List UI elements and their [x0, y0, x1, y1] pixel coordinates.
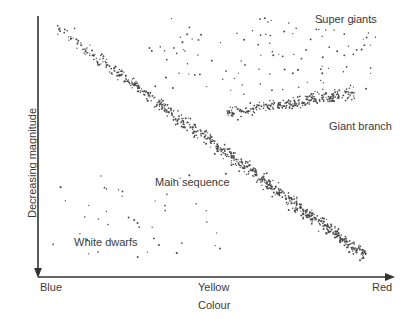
x-tick-label-red: Red: [372, 282, 392, 293]
x-tick-label-blue: Blue: [40, 282, 62, 293]
annotation-main-sequence: Main sequence: [155, 177, 230, 188]
x-axis-title: Colour: [198, 300, 230, 311]
x-axis-arrowhead: [385, 273, 395, 281]
annotation-giant-branch: Giant branch: [329, 121, 392, 132]
annotation-super-giants: Super giants: [315, 14, 377, 25]
scatter-plot-canvas: [0, 0, 416, 319]
annotation-white-dwarfs: White dwarfs: [74, 237, 138, 248]
x-tick-label-yellow: Yellow: [198, 282, 229, 293]
data-points-layer: [52, 17, 376, 261]
hr-diagram-figure: Decreasing magnitude Blue Yellow Red Col…: [0, 0, 416, 319]
y-axis-title: Decreasing magnitude: [26, 108, 38, 218]
